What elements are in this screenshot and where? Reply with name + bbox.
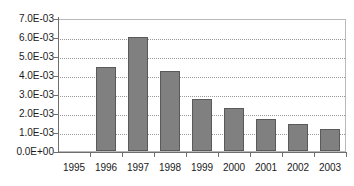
- y-axis-tick-label: 1.0E-03: [2, 128, 54, 138]
- x-axis-tick-label: 2002: [282, 162, 314, 173]
- x-axis-line: [58, 152, 347, 153]
- x-axis-tick: [314, 152, 315, 157]
- x-axis-tick-label: 1999: [186, 162, 218, 173]
- x-axis-tick-label: 1998: [154, 162, 186, 173]
- bar: [96, 67, 116, 151]
- x-axis-tick: [122, 152, 123, 157]
- y-axis-tick: [54, 114, 59, 115]
- plot-area: [58, 19, 346, 152]
- x-axis-tick: [346, 152, 347, 157]
- y-axis-tick: [54, 57, 59, 58]
- bar: [256, 119, 276, 151]
- y-axis-tick-label: 7.0E-03: [2, 14, 54, 24]
- gridline: [58, 58, 345, 59]
- y-axis-tick: [54, 38, 59, 39]
- x-axis-tick: [218, 152, 219, 157]
- bar: [160, 71, 180, 151]
- y-axis-tick-label: 4.0E-03: [2, 71, 54, 81]
- x-axis-tick-label: 1995: [58, 162, 90, 173]
- x-axis-tick: [186, 152, 187, 157]
- x-axis-tick: [282, 152, 283, 157]
- x-axis-tick: [90, 152, 91, 157]
- y-axis-tick-label: 5.0E-03: [2, 52, 54, 62]
- y-axis-tick-label: 3.0E-03: [2, 90, 54, 100]
- gridline: [58, 39, 345, 40]
- x-axis-tick-label: 2003: [314, 162, 346, 173]
- bar: [224, 108, 244, 151]
- bar-chart-figure: 0.0E+001.0E-032.0E-033.0E-034.0E-035.0E-…: [0, 0, 354, 186]
- x-axis-tick-label: 2000: [218, 162, 250, 173]
- bar: [192, 99, 212, 151]
- x-axis-tick-label: 1997: [122, 162, 154, 173]
- y-axis-tick: [54, 95, 59, 96]
- y-axis-tick: [54, 19, 59, 20]
- x-axis-tick-label: 1996: [90, 162, 122, 173]
- y-axis-tick-label: 6.0E-03: [2, 33, 54, 43]
- bar: [288, 124, 308, 151]
- y-axis-tick-label: 2.0E-03: [2, 109, 54, 119]
- x-axis-tick: [250, 152, 251, 157]
- bar: [128, 37, 148, 151]
- x-axis-tick-label: 2001: [250, 162, 282, 173]
- y-axis-tick: [54, 152, 59, 153]
- y-axis-tick-label: 0.0E+00: [2, 147, 54, 157]
- y-axis-tick: [54, 133, 59, 134]
- y-axis-tick: [54, 76, 59, 77]
- x-axis-tick: [154, 152, 155, 157]
- bar: [320, 129, 340, 151]
